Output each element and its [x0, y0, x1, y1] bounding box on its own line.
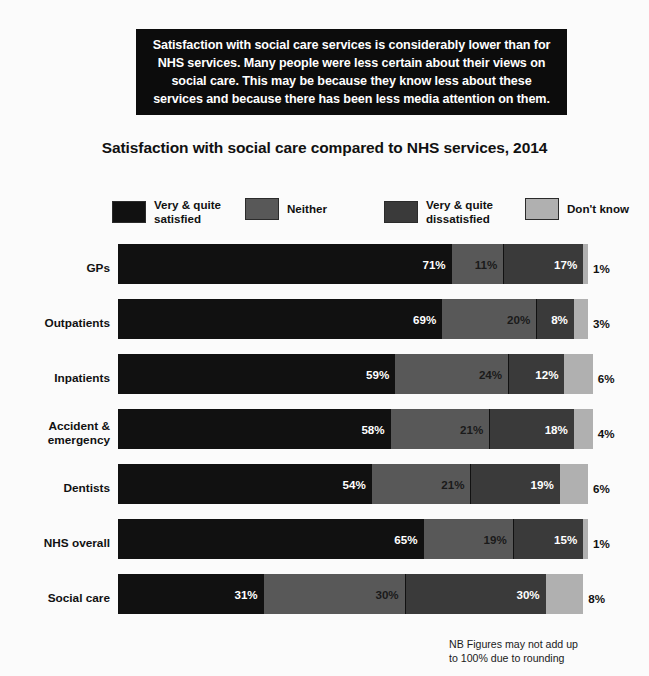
- bar-outside-value: 8%: [583, 591, 605, 604]
- bar-segment-value: 30%: [516, 588, 539, 601]
- bar-row-label: Dentists: [0, 480, 110, 494]
- bar-segment: 69%: [118, 299, 442, 339]
- bar-segment: 21%: [372, 464, 471, 504]
- bar-row-label: Accident & emergency: [0, 418, 110, 446]
- bar-segment-value: 21%: [441, 478, 464, 491]
- bar-rows: GPs71%11%17%1%Outpatients69%20%8%3%Inpat…: [0, 240, 649, 625]
- bar-row: NHS overall65%19%15%1%: [0, 515, 649, 570]
- bar-outside-value: 6%: [588, 481, 610, 494]
- bar-segment-value: 30%: [375, 588, 398, 601]
- bar-row-label: Inpatients: [0, 370, 110, 384]
- bar-segment: [560, 464, 588, 504]
- stacked-bar: 54%21%19%: [118, 464, 588, 504]
- stacked-bar: 65%19%15%: [118, 519, 588, 559]
- bar-segment: 8%: [536, 299, 574, 339]
- bar-row: Dentists54%21%19%6%: [0, 460, 649, 515]
- bar-segment: 17%: [503, 244, 583, 284]
- bar-outside-value: 1%: [588, 261, 610, 274]
- bar-segment: 20%: [442, 299, 536, 339]
- chart-footnote: NB Figures may not add up to 100% due to…: [449, 637, 649, 666]
- legend-swatch-satisfied: [112, 201, 146, 223]
- legend-label-dissatisfied: Very & quite dissatisfied: [426, 198, 493, 226]
- bar-segment: 31%: [118, 574, 264, 614]
- bar-segment: 15%: [513, 519, 584, 559]
- bar-outside-value: 1%: [588, 536, 610, 549]
- bar-segment-value: 17%: [554, 258, 577, 271]
- legend-item-satisfied: Very & quite satisfied: [112, 198, 221, 226]
- bar-segment-value: 11%: [475, 258, 498, 271]
- bar-segment: 71%: [118, 244, 452, 284]
- chart-legend: Very & quite satisfied Neither Very & qu…: [112, 198, 632, 230]
- bar-segment: 30%: [405, 574, 546, 614]
- bar-segment: 19%: [424, 519, 513, 559]
- legend-label-neither: Neither: [287, 202, 327, 216]
- legend-swatch-dissatisfied: [384, 201, 418, 223]
- stacked-bar: 31%30%30%: [118, 574, 583, 614]
- bar-row-label: GPs: [0, 260, 110, 274]
- bar-segment-value: 19%: [531, 478, 554, 491]
- bar-segment: 54%: [118, 464, 372, 504]
- legend-item-dont-know: Don't know: [525, 198, 629, 220]
- bar-segment: 58%: [118, 409, 391, 449]
- bar-outside-value: 4%: [593, 426, 615, 439]
- bar-row: Outpatients69%20%8%3%: [0, 295, 649, 350]
- bar-segment: 30%: [264, 574, 405, 614]
- bar-segment-value: 65%: [394, 533, 417, 546]
- legend-item-neither: Neither: [245, 198, 327, 220]
- bar-segment: 24%: [395, 354, 508, 394]
- bar-segment-value: 71%: [422, 258, 445, 271]
- stacked-bar: 71%11%17%: [118, 244, 588, 284]
- callout-banner: Satisfaction with social care services i…: [136, 29, 567, 115]
- bar-row-label: NHS overall: [0, 535, 110, 549]
- bar-segment-value: 54%: [343, 478, 366, 491]
- legend-item-dissatisfied: Very & quite dissatisfied: [384, 198, 493, 226]
- bar-row: GPs71%11%17%1%: [0, 240, 649, 295]
- bar-segment: [574, 409, 593, 449]
- legend-swatch-dont-know: [525, 198, 559, 220]
- legend-label-satisfied: Very & quite satisfied: [154, 198, 221, 226]
- bar-segment-value: 8%: [551, 313, 568, 326]
- bar-segment-value: 31%: [234, 588, 257, 601]
- bar-segment-value: 59%: [366, 368, 389, 381]
- bar-segment-value: 21%: [460, 423, 483, 436]
- bar-segment-value: 19%: [484, 533, 507, 546]
- bar-segment: 18%: [489, 409, 574, 449]
- bar-outside-value: 6%: [593, 371, 615, 384]
- bar-row-label: Outpatients: [0, 315, 110, 329]
- stacked-bar: 58%21%18%: [118, 409, 593, 449]
- callout-text: Satisfaction with social care services i…: [152, 36, 551, 109]
- bar-segment-value: 69%: [413, 313, 436, 326]
- bar-segment: [574, 299, 588, 339]
- bar-segment: 11%: [452, 244, 504, 284]
- chart-page: Satisfaction with social care services i…: [0, 0, 649, 676]
- bar-segment: 21%: [391, 409, 490, 449]
- stacked-bar: 69%20%8%: [118, 299, 588, 339]
- bar-outside-value: 3%: [588, 316, 610, 329]
- legend-label-dont-know: Don't know: [567, 202, 629, 216]
- bar-segment-value: 24%: [479, 368, 502, 381]
- bar-segment: [564, 354, 592, 394]
- bar-segment: 65%: [118, 519, 424, 559]
- stacked-bar: 59%24%12%: [118, 354, 593, 394]
- bar-segment: 59%: [118, 354, 395, 394]
- bar-row: Social care31%30%30%8%: [0, 570, 649, 625]
- bar-segment: 12%: [508, 354, 564, 394]
- bar-segment-value: 20%: [507, 313, 530, 326]
- bar-row: Inpatients59%24%12%6%: [0, 350, 649, 405]
- bar-segment-value: 58%: [361, 423, 384, 436]
- bar-segment-value: 18%: [545, 423, 568, 436]
- legend-swatch-neither: [245, 198, 279, 220]
- bar-segment-value: 12%: [535, 368, 558, 381]
- bar-row-label: Social care: [0, 590, 110, 604]
- chart-title: Satisfaction with social care compared t…: [0, 138, 649, 159]
- bar-segment: 19%: [470, 464, 559, 504]
- bar-segment: [546, 574, 584, 614]
- bar-row: Accident & emergency58%21%18%4%: [0, 405, 649, 460]
- bar-segment-value: 15%: [554, 533, 577, 546]
